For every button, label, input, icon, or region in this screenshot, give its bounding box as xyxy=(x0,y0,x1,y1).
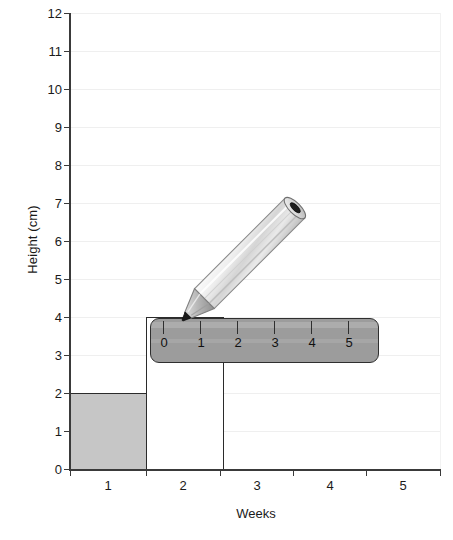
x-tick-label: 5 xyxy=(383,478,423,493)
y-tick-label: 7 xyxy=(38,196,62,211)
pencil xyxy=(0,0,453,540)
y-tick-label: 11 xyxy=(38,44,62,59)
gridline xyxy=(70,165,441,166)
y-tick-label: 2 xyxy=(38,386,62,401)
x-tick-mark xyxy=(440,470,441,476)
y-tick-label: 6 xyxy=(38,234,62,249)
ruler-tick xyxy=(237,321,238,334)
x-axis-line xyxy=(69,469,441,471)
bar-week-1 xyxy=(70,393,147,471)
y-axis-tick-labels: 12 11 10 9 8 7 6 5 4 3 2 1 0 xyxy=(36,0,62,540)
gridline xyxy=(70,51,441,52)
ruler-tick xyxy=(274,321,275,334)
y-tick-label: 1 xyxy=(38,424,62,439)
x-tick-label: 3 xyxy=(237,478,277,493)
gridline xyxy=(70,279,441,280)
x-tick-label: 1 xyxy=(88,478,128,493)
x-tick-mark xyxy=(293,470,294,476)
x-tick-mark xyxy=(70,470,71,476)
ruler-tick xyxy=(311,321,312,334)
y-tick-label: 8 xyxy=(38,158,62,173)
bar-chart-figure: 12 11 10 9 8 7 6 5 4 3 2 1 0 0 1 2 3 4 5 xyxy=(0,0,453,540)
y-axis-title: Height (cm) xyxy=(25,170,40,310)
pencil-barrel xyxy=(194,198,304,308)
x-tick-mark xyxy=(220,470,221,476)
x-tick-mark xyxy=(366,470,367,476)
y-tick-label: 4 xyxy=(38,310,62,325)
ruler-number: 5 xyxy=(339,335,359,350)
gridline xyxy=(70,127,441,128)
y-axis-line xyxy=(69,13,71,471)
x-tick-mark xyxy=(146,470,147,476)
y-tick-label: 12 xyxy=(38,6,62,21)
ruler-tick xyxy=(348,321,349,334)
y-tick-label: 9 xyxy=(38,120,62,135)
gridline xyxy=(70,241,441,242)
y-tick-label: 5 xyxy=(38,272,62,287)
plot-right-edge xyxy=(440,13,441,470)
y-tick-label: 0 xyxy=(38,462,62,477)
y-tick-label: 3 xyxy=(38,348,62,363)
ruler-number: 2 xyxy=(228,335,248,350)
pencil-end-face xyxy=(281,194,309,222)
x-tick-label: 2 xyxy=(163,478,203,493)
x-tick-label: 4 xyxy=(310,478,350,493)
bar-week-2-outline xyxy=(146,317,224,471)
ruler-number: 3 xyxy=(265,335,285,350)
ruler-number: 4 xyxy=(302,335,322,350)
y-tick-label: 10 xyxy=(38,82,62,97)
gridline xyxy=(70,203,441,204)
gridline xyxy=(70,13,441,14)
gridline xyxy=(70,89,441,90)
x-axis-title: Weeks xyxy=(70,506,442,521)
